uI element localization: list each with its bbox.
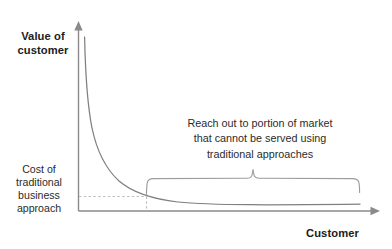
diagram-canvas: Value of customer Customer Cost of tradi…	[0, 0, 392, 249]
cost-of-traditional-approach-label: Cost of traditional business approach	[4, 163, 74, 215]
y-axis	[74, 21, 82, 211]
x-axis-label: Customer	[306, 227, 382, 241]
cost-reference-lines	[79, 197, 147, 211]
x-axis	[79, 207, 381, 215]
y-axis-label: Value of customer	[12, 30, 74, 57]
reach-out-market-annotation: Reach out to portion of market that cann…	[168, 116, 352, 162]
market-brace	[147, 170, 360, 196]
